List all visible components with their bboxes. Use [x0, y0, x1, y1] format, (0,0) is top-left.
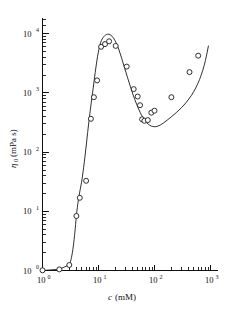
y-tick-exponent: 3: [36, 86, 39, 92]
x-tick-label: 10: [149, 275, 158, 285]
x-tick-label: 10: [37, 275, 46, 285]
data-point: [145, 118, 150, 123]
data-point: [131, 87, 136, 92]
data-point: [135, 94, 140, 99]
y-axis-title: η 0 (mPa s): [8, 129, 19, 168]
data-point: [91, 95, 96, 100]
data-point: [67, 263, 72, 268]
data-point: [84, 178, 89, 183]
data-point: [107, 39, 112, 44]
axis-lines: [43, 18, 219, 271]
data-point: [138, 103, 143, 108]
x-axis-title: c (mM): [108, 292, 136, 302]
y-axis-minor-ticks: [43, 20, 47, 253]
data-point: [95, 78, 100, 83]
data-point: [40, 268, 45, 273]
data-point: [187, 70, 192, 75]
y-axis-tick-labels: 10 0 10 1 10 2 10 3 10 4: [23, 27, 39, 275]
x-tick-exponent: 3: [216, 274, 219, 280]
data-point: [152, 108, 157, 113]
y-tick-exponent: 0: [36, 264, 39, 270]
x-axis-title-units: (mM): [115, 292, 136, 302]
data-markers: [40, 39, 201, 273]
x-tick-label: 10: [93, 275, 102, 285]
x-tick-label: 10: [205, 275, 214, 285]
data-point: [74, 214, 79, 219]
log-log-plot: 10 0 10 1 10 2 10 3 10 4 10 0 10 1 10 2 …: [0, 0, 233, 312]
y-axis-title-symbol: η: [8, 163, 18, 168]
data-point: [196, 53, 201, 58]
data-point: [169, 95, 174, 100]
y-tick-exponent: 4: [36, 27, 39, 33]
y-tick-label: 10: [23, 266, 32, 276]
figure-container: 10 0 10 1 10 2 10 3 10 4 10 0 10 1 10 2 …: [0, 0, 233, 312]
y-tick-label: 10: [23, 88, 32, 98]
y-axis-title-subscript: 0: [12, 159, 19, 162]
data-point: [113, 43, 118, 48]
y-axis-title-units: (mPa s): [8, 129, 18, 157]
x-tick-exponent: 1: [104, 274, 107, 280]
y-tick-label: 10: [23, 206, 32, 216]
data-curve: [43, 34, 209, 270]
y-tick-exponent: 1: [36, 205, 39, 211]
data-point: [124, 64, 129, 69]
x-tick-exponent: 2: [160, 274, 163, 280]
x-axis-tick-labels: 10 0 10 1 10 2 10 3: [37, 274, 219, 286]
data-point: [57, 267, 62, 272]
y-tick-exponent: 2: [36, 146, 39, 152]
y-tick-label: 10: [23, 147, 32, 157]
x-tick-exponent: 0: [48, 274, 51, 280]
data-point: [88, 116, 93, 121]
x-axis-minor-ticks: [59, 267, 208, 271]
y-tick-label: 10: [23, 29, 32, 39]
data-point: [77, 195, 82, 200]
x-axis-title-symbol: c: [108, 292, 112, 302]
